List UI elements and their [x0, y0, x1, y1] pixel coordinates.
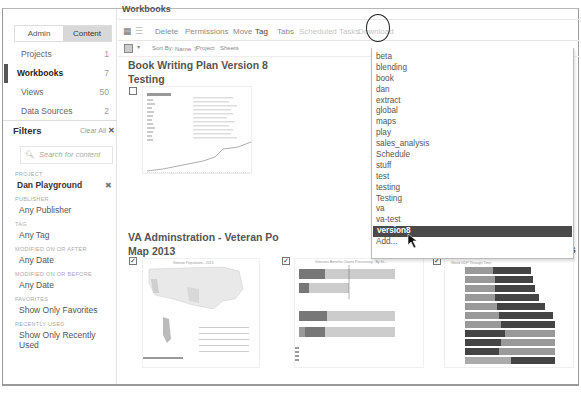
tag-option[interactable]: play — [372, 128, 573, 139]
title-line: Book Writing Plan Version 8 — [128, 58, 268, 72]
thumbnail-caption: Veterans Benefits Claims Processing - By… — [315, 260, 387, 264]
workbook-checkbox[interactable]: ✓ — [282, 257, 290, 265]
mouse-cursor-icon — [407, 233, 419, 249]
thumbnail-image — [143, 87, 252, 174]
filter-label-recently-used: RECENTLY USED — [15, 321, 65, 327]
tag-option[interactable]: testing — [372, 183, 573, 194]
tag-option[interactable]: global — [372, 106, 573, 117]
nav-label: Workbooks — [17, 64, 63, 83]
nav-count: 1 — [104, 45, 109, 64]
search-icon: 🔍︎ — [25, 150, 35, 159]
filter-label-modified-before: MODIFIED ON OR BEFORE — [15, 271, 92, 277]
sort-name[interactable]: Name ⇧ — [175, 45, 198, 52]
thumbnail-caption: World GDP Through Time — [451, 261, 491, 265]
clear-all-label: Clear All — [80, 127, 106, 134]
nav-count: 50 — [100, 83, 109, 102]
title-line: Map 2013 — [128, 244, 279, 258]
nav-count: 7 — [104, 64, 109, 83]
permissions-button[interactable]: Permissions — [185, 27, 229, 36]
filters-title: Filters — [13, 125, 42, 136]
filter-value-publisher[interactable]: Any Publisher — [19, 205, 71, 215]
workbook-checkbox[interactable] — [129, 87, 137, 95]
select-all-checkbox[interactable] — [124, 44, 133, 53]
nav-item-data-sources[interactable]: Data Sources 2 — [4, 102, 117, 121]
filter-label-tag: TAG — [15, 221, 27, 227]
tag-option[interactable]: va — [372, 204, 573, 215]
admin-content-toggle: Admin Content — [14, 25, 112, 42]
title-line: Testing — [128, 72, 268, 86]
sort-project[interactable]: Project — [196, 45, 215, 51]
thumbnail-image — [295, 259, 424, 368]
admin-tab[interactable]: Admin — [15, 26, 63, 41]
sort-by-label: Sort By: — [152, 45, 173, 51]
search-placeholder: Search for content — [39, 150, 100, 159]
nav-label: Projects — [21, 45, 52, 64]
sidebar: Admin Content Projects 1 Workbooks 7 Vie… — [3, 9, 117, 385]
annotation-circle — [366, 14, 390, 42]
tag-option[interactable]: blending — [372, 63, 573, 74]
filter-label-modified-after: MODIFIED ON OR AFTER — [15, 246, 87, 252]
content-nav: Projects 1 Workbooks 7 Views 50 Data Sou… — [3, 45, 117, 121]
close-icon: ✕ — [108, 126, 115, 135]
tag-button[interactable]: Tag — [255, 27, 268, 36]
tag-option-selected[interactable]: version8 — [373, 226, 572, 237]
nav-item-workbooks[interactable]: Workbooks 7 — [4, 64, 117, 83]
window-bottom-border — [3, 384, 579, 386]
tag-option[interactable]: Testing — [372, 194, 573, 205]
nav-item-views[interactable]: Views 50 — [4, 83, 117, 102]
workbook-thumbnail[interactable]: Veterans Benefits Claims Processing - By… — [294, 258, 424, 368]
nav-item-projects[interactable]: Projects 1 — [4, 45, 117, 64]
view-mode-icons: ▦☰ — [123, 26, 146, 36]
tag-option[interactable]: Schedule — [372, 150, 573, 161]
filter-label-favorites: FAVORITES — [15, 296, 48, 302]
move-button[interactable]: Move — [233, 27, 253, 36]
tag-option[interactable]: extract — [372, 96, 573, 107]
workbook-thumbnail[interactable]: Veteran Population - 2013 — [142, 258, 260, 368]
filters-header: Filters Clear All ✕ — [13, 125, 115, 136]
thumbnail-caption: Veteran Population - 2013 — [173, 261, 213, 265]
sidebar-divider — [3, 120, 117, 121]
thumbnail-image — [445, 259, 574, 368]
filter-value-project[interactable]: Dan Playground — [17, 180, 82, 190]
filter-value-recently-used[interactable]: Show Only Recently Used — [19, 330, 116, 350]
scheduled-tasks-button[interactable]: Scheduled Tasks — [299, 27, 359, 36]
nav-label: Views — [21, 83, 44, 102]
workbook-card-title[interactable]: Book Writing Plan Version 8 Testing — [128, 58, 268, 86]
workbook-checkbox[interactable]: ✓ — [129, 257, 137, 265]
tag-dropdown-menu: beta blending book dan extract global ma… — [371, 48, 574, 259]
tag-option[interactable]: va-test — [372, 215, 573, 226]
tag-option[interactable]: sales_analysis — [372, 139, 573, 150]
list-view-icon[interactable]: ☰ — [135, 26, 146, 36]
filter-value-favorites[interactable]: Show Only Favorites — [19, 305, 97, 315]
clear-all-button[interactable]: Clear All ✕ — [80, 126, 115, 135]
tag-option[interactable]: test — [372, 172, 573, 183]
delete-button[interactable]: Delete — [155, 27, 178, 36]
filter-label-project: PROJECT — [15, 171, 43, 177]
tag-option[interactable]: beta — [372, 52, 573, 63]
workbook-thumbnail[interactable] — [142, 86, 252, 174]
action-toolbar: ▦☰ Delete Permissions Move Tag Tabs Sche… — [118, 19, 579, 41]
content-tab[interactable]: Content — [63, 26, 111, 41]
workbook-thumbnail[interactable]: World GDP Through Time — [444, 258, 574, 368]
title-line: VA Adminstration - Veteran Po — [128, 230, 279, 244]
thumbnail-image — [143, 259, 260, 368]
nav-label: Data Sources — [21, 102, 73, 121]
tag-option[interactable]: maps — [372, 117, 573, 128]
sort-sheets[interactable]: Sheets — [220, 45, 239, 51]
tag-option[interactable]: dan — [372, 85, 573, 96]
tabs-button[interactable]: Tabs — [277, 27, 294, 36]
content-search-input[interactable]: 🔍︎Search for content — [20, 146, 113, 164]
remove-filter-icon[interactable]: ✖ — [105, 181, 112, 190]
filter-value-modified-after[interactable]: Any Date — [19, 255, 54, 265]
filter-label-publisher: PUBLISHER — [15, 196, 49, 202]
filter-value-tag[interactable]: Any Tag — [19, 230, 50, 240]
nav-count: 2 — [104, 102, 109, 121]
tag-option[interactable]: stuff — [372, 161, 573, 172]
grid-view-icon[interactable]: ▦ — [123, 26, 135, 36]
chevron-down-icon[interactable]: ▾ — [137, 43, 140, 50]
tag-option[interactable]: book — [372, 74, 573, 85]
add-tag-option[interactable]: Add... — [372, 237, 573, 248]
workbook-card-title[interactable]: VA Adminstration - Veteran Po Map 2013 — [128, 230, 279, 258]
main-content: Workbooks ▦☰ Delete Permissions Move Tag… — [118, 0, 579, 386]
filter-value-modified-before[interactable]: Any Date — [19, 280, 54, 290]
